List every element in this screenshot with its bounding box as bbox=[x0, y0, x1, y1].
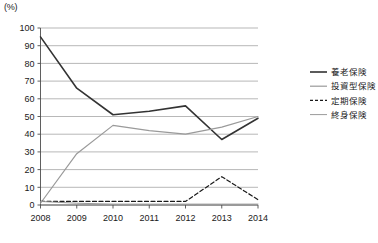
series-line-定期保険 bbox=[41, 177, 259, 202]
y-tick-label-50: 50 bbox=[24, 112, 34, 122]
legend-label-終身保険: 終身保険 bbox=[331, 110, 367, 120]
series-line-養老保険 bbox=[41, 37, 259, 140]
y-tick-label-40: 40 bbox=[24, 129, 34, 139]
x-axis-ticks: 2008200920102011201220132014 bbox=[30, 205, 268, 223]
chart-canvas: 1009080706050403020100 20082009201020112… bbox=[0, 0, 378, 243]
legend-label-投資型保険: 投資型保険 bbox=[331, 81, 376, 91]
x-tick-label-2013: 2013 bbox=[212, 213, 232, 223]
x-tick-label-2012: 2012 bbox=[175, 213, 195, 223]
y-tick-label-10: 10 bbox=[24, 183, 34, 193]
chart-legend: 養老保険投資型保険定期保険終身保険 bbox=[310, 67, 376, 120]
x-tick-label-2009: 2009 bbox=[67, 213, 87, 223]
legend-label-定期保険: 定期保険 bbox=[331, 96, 367, 106]
y-tick-label-60: 60 bbox=[24, 94, 34, 104]
y-tick-label-0: 0 bbox=[29, 200, 34, 210]
x-tick-label-2011: 2011 bbox=[140, 213, 159, 223]
y-tick-label-30: 30 bbox=[24, 147, 34, 157]
y-tick-label-20: 20 bbox=[24, 165, 34, 175]
line-chart: (%) 1009080706050403020100 2008200920102… bbox=[0, 0, 378, 243]
series-line-投資型保険 bbox=[41, 117, 259, 204]
legend-label-養老保険: 養老保険 bbox=[331, 67, 367, 77]
y-tick-label-70: 70 bbox=[24, 76, 34, 86]
y-tick-label-90: 90 bbox=[24, 41, 34, 51]
x-tick-label-2014: 2014 bbox=[248, 213, 268, 223]
x-tick-label-2010: 2010 bbox=[103, 213, 123, 223]
y-tick-label-80: 80 bbox=[24, 59, 34, 69]
data-series bbox=[41, 37, 259, 204]
gridlines bbox=[41, 28, 259, 205]
x-tick-label-2008: 2008 bbox=[30, 213, 50, 223]
y-tick-label-100: 100 bbox=[19, 23, 34, 33]
y-axis-ticks: 1009080706050403020100 bbox=[19, 23, 40, 210]
